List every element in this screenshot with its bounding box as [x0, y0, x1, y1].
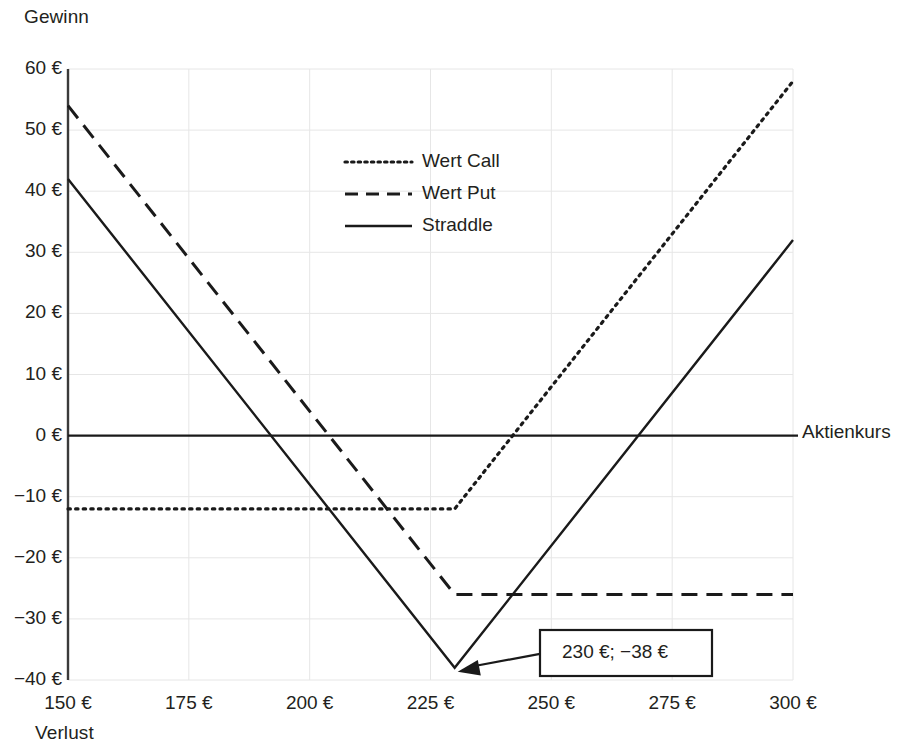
legend-label-wert-call: Wert Call: [422, 150, 500, 172]
x-axis-tick-label: 225 €: [407, 692, 455, 714]
straddle-payoff-chart: Gewinn Verlust 60 €50 €40 €30 €20 €10 €0…: [0, 0, 902, 749]
x-axis-tick-label: 300 €: [769, 692, 817, 714]
legend-label-straddle: Straddle: [422, 214, 493, 236]
x-axis-title-stockprice: Aktienkurs: [802, 421, 891, 443]
annotation-label: 230 €; −38 €: [562, 641, 668, 663]
x-axis-tick-label: 175 €: [165, 692, 213, 714]
x-axis-tick-label: 200 €: [286, 692, 334, 714]
x-axis-tick-label: 150 €: [44, 692, 92, 714]
x-axis-tick-label: 250 €: [528, 692, 576, 714]
x-axis-tick-labels: 150 €175 €200 €225 €250 €275 €300 €: [0, 0, 902, 749]
x-axis-tick-label: 275 €: [648, 692, 696, 714]
legend-label-wert-put: Wert Put: [422, 182, 496, 204]
